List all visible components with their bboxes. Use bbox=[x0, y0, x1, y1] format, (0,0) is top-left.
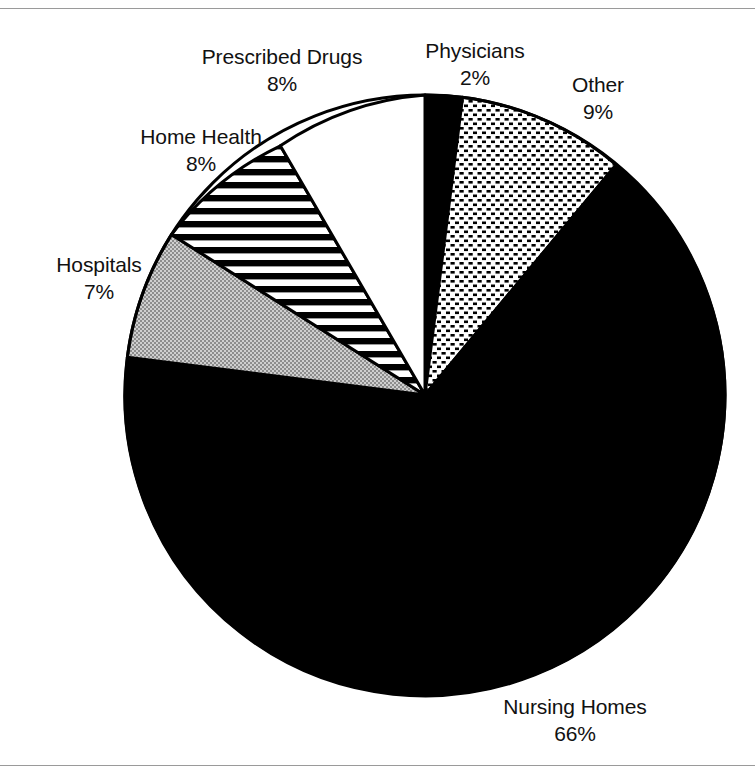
pie-slices-group bbox=[125, 95, 725, 696]
pie-label-prescribed-drugs-value: 8% bbox=[182, 71, 382, 98]
pie-label-nursing-homes: Nursing Homes 66% bbox=[470, 694, 680, 748]
pie-label-home-health: Home Health 8% bbox=[106, 124, 296, 178]
page-root: Prescribed Drugs 8% Physicians 2% Other … bbox=[0, 0, 755, 781]
pie-label-prescribed-drugs-name: Prescribed Drugs bbox=[182, 44, 382, 71]
pie-label-physicians-value: 2% bbox=[400, 65, 550, 92]
pie-label-prescribed-drugs: Prescribed Drugs 8% bbox=[182, 44, 382, 98]
pie-label-physicians: Physicians 2% bbox=[400, 38, 550, 92]
pie-label-physicians-name: Physicians bbox=[400, 38, 550, 65]
pie-chart: Prescribed Drugs 8% Physicians 2% Other … bbox=[0, 0, 755, 781]
pie-label-nursing-homes-name: Nursing Homes bbox=[470, 694, 680, 721]
pie-label-home-health-name: Home Health bbox=[106, 124, 296, 151]
pie-label-hospitals-name: Hospitals bbox=[24, 252, 174, 279]
pie-label-hospitals: Hospitals 7% bbox=[24, 252, 174, 306]
pie-label-other: Other 9% bbox=[533, 72, 663, 126]
pie-label-other-name: Other bbox=[533, 72, 663, 99]
pie-label-other-value: 9% bbox=[533, 99, 663, 126]
pie-label-nursing-homes-value: 66% bbox=[470, 721, 680, 748]
pie-label-home-health-value: 8% bbox=[106, 151, 296, 178]
pie-label-hospitals-value: 7% bbox=[24, 279, 174, 306]
